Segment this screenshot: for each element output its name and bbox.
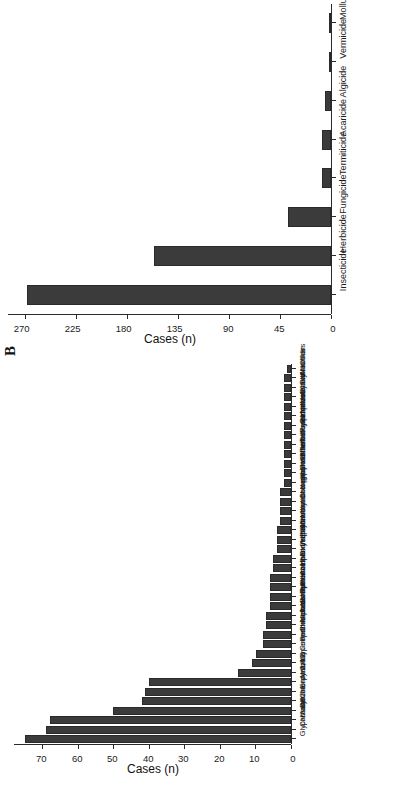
value-tick [255,745,256,749]
bar [288,207,331,227]
category-tick [292,624,296,625]
category-tick [292,482,296,483]
category-tick [292,615,296,616]
bar [284,450,291,458]
category-label: Herbicide [338,214,348,252]
value-axis-title: Cases (n) [127,762,177,776]
category-tick [332,100,336,101]
value-tick-label: 50 [80,753,118,764]
category-tick [292,577,296,578]
category-tick [292,520,296,521]
bar [27,285,331,305]
bar [277,545,291,553]
bar [284,469,291,477]
value-tick-label: 90 [196,323,234,334]
chart-b-active-ingredient: 010203040506070Cases (n)GlyphosateCarbar… [0,360,409,790]
category-tick [292,710,296,711]
bar [277,536,291,544]
plot-area [14,364,291,744]
bar [46,726,291,734]
category-tick [332,216,336,217]
bar [284,460,291,468]
bar [270,583,291,591]
category-tick [292,491,296,492]
bar [266,612,291,620]
category-tick [332,139,336,140]
bar [145,688,291,696]
category-tick [292,691,296,692]
category-tick [292,539,296,540]
category-tick [292,700,296,701]
chart-a-pesticide-class: 04590135180225270Cases (n)InsecticideHer… [0,0,409,360]
category-tick [292,681,296,682]
bar [284,384,291,392]
value-tick-label: 0 [258,753,296,764]
bar [284,479,291,487]
category-tick [292,662,296,663]
bar [154,246,331,266]
value-axis-line [8,314,331,315]
category-tick [292,396,296,397]
category-tick [292,377,296,378]
bar [263,631,291,639]
category-tick [292,425,296,426]
plot-area [8,4,331,314]
category-tick [292,415,296,416]
value-tick-label: 20 [186,753,224,764]
category-tick [292,548,296,549]
category-label: Molluscicide [338,0,348,20]
bar [256,650,292,658]
bar [252,659,291,667]
bar [263,640,291,648]
category-tick [292,719,296,720]
bar [284,403,291,411]
panel-b: 010203040506070Cases (n)GlyphosateCarbar… [0,360,409,790]
value-tick [127,315,128,319]
category-tick [292,501,296,502]
category-tick [292,605,296,606]
category-tick [292,558,296,559]
value-tick [78,745,79,749]
bar [270,593,291,601]
bar [284,374,291,382]
bar [284,422,291,430]
bar [113,707,291,715]
value-tick-label: 45 [247,323,285,334]
category-label: Algicide [338,66,348,98]
category-label: Fungicide [338,175,348,214]
category-tick [292,596,296,597]
bar [277,526,291,534]
value-axis-title: Cases (n) [144,332,194,346]
value-tick [25,315,26,319]
value-tick [76,315,77,319]
value-tick-label: 70 [9,753,47,764]
category-label: Acaricide [338,99,348,136]
bar [284,441,291,449]
panel-a: 04590135180225270Cases (n)InsecticideHer… [0,0,409,360]
category-tick [292,738,296,739]
category-tick [292,368,296,369]
category-tick [332,61,336,62]
category-tick [292,453,296,454]
category-tick [292,529,296,530]
bar [284,431,291,439]
value-tick [229,315,230,319]
category-label: Others [298,344,307,366]
category-tick [292,672,296,673]
category-tick [332,255,336,256]
bar [238,669,291,677]
value-tick-label: 10 [222,753,260,764]
category-tick [292,463,296,464]
bar [273,564,291,572]
value-tick [113,745,114,749]
bar [50,716,291,724]
bar [322,168,331,188]
category-label: Insecticide [338,249,348,292]
bar [280,517,291,525]
value-tick [331,315,332,319]
category-tick [292,387,296,388]
value-axis-line [14,744,291,745]
bar [284,412,291,420]
bar [266,621,291,629]
category-tick [332,294,336,295]
